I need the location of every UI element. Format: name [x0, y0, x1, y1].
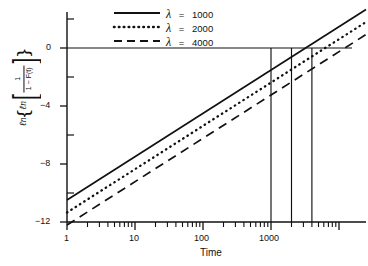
y-tick-label-minus8: −8: [40, 158, 50, 168]
drop-lines: [271, 48, 312, 222]
series-line-lambda-4000: [67, 35, 366, 226]
y-axis-minor-ticks: [67, 19, 74, 193]
series-line-lambda-1000: [67, 10, 366, 201]
legend-lambda-symbol: λ: [166, 21, 171, 35]
y-tick-label-minus4: −4: [40, 100, 50, 110]
y-axis-formula: ℓn { ℓn [ 1 1 − F(t) ] }: [14, 49, 33, 126]
legend-sample-lines: [114, 13, 160, 41]
legend-value: 1000: [192, 9, 213, 20]
x-tick-label-10: 10: [129, 233, 139, 243]
y-tick-label-minus12: −12: [35, 216, 50, 226]
x-tick-label-100: 100: [194, 233, 209, 243]
legend-entry-lambda-4000: λ = 4000: [166, 35, 213, 50]
legend-value: 4000: [192, 37, 213, 48]
y-tick-label-0: 0: [46, 42, 51, 52]
fraction-denominator: 1 − F(t): [26, 65, 34, 92]
legend-equals: =: [179, 9, 185, 20]
fraction: 1 1 − F(t): [14, 65, 33, 92]
y-axis-major-ticks: [60, 48, 67, 222]
x-tick-label-1000: 1000: [259, 233, 279, 243]
outer-ln-text: ℓn: [19, 117, 29, 126]
legend-equals: =: [179, 37, 185, 48]
x-tick-label-1: 1: [64, 233, 69, 243]
legend-lambda-symbol: λ: [166, 35, 171, 49]
legend-entry-lambda-1000: λ = 1000: [166, 7, 213, 22]
series-line-lambda-2000: [67, 22, 366, 213]
x-axis-minor-ticks: [88, 222, 336, 227]
inner-ln-text: ℓn: [19, 101, 29, 110]
weibull-probability-chart: λ = 1000 λ = 2000 λ = 4000 0 −4 −8 −12 1…: [0, 0, 368, 266]
legend-value: 2000: [192, 23, 213, 34]
fraction-bar-icon: [24, 65, 25, 92]
fraction-numerator: 1: [14, 75, 22, 83]
y-axis-title: ℓn { ℓn [ 1 1 − F(t) ] }: [14, 18, 33, 158]
legend-equals: =: [179, 23, 185, 34]
denominator-minus: −: [26, 80, 33, 84]
legend-entry-lambda-2000: λ = 2000: [166, 21, 213, 36]
denominator-one: 1: [26, 86, 33, 90]
x-axis-title: Time: [200, 247, 222, 258]
denominator-ft: F(t): [26, 67, 33, 78]
legend-lambda-symbol: λ: [166, 7, 171, 21]
